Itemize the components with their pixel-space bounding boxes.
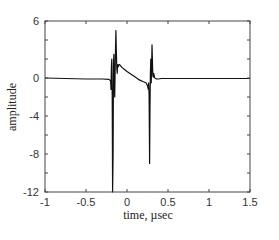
y-tick-label: -4: [29, 110, 39, 122]
y-tick-label: -8: [29, 148, 39, 160]
x-tick-label: 1: [206, 196, 212, 208]
x-tick-label: 1.5: [242, 196, 257, 208]
y-tick-label: 6: [33, 15, 39, 27]
plot-frame: [45, 21, 250, 192]
plot-area: [45, 31, 250, 193]
y-tick-labels: -12-8-406: [23, 15, 39, 198]
signal-line: [45, 31, 250, 193]
x-tick-labels: -1-0.500.511.5: [40, 196, 258, 208]
x-tick-label: 0: [124, 196, 130, 208]
x-tick-label: -1: [40, 196, 50, 208]
x-tick-label: -0.5: [77, 196, 96, 208]
axis-ticks: [45, 21, 250, 192]
chart: -1-0.500.511.5 -12-8-406 time, µsec ampl…: [0, 0, 279, 240]
y-axis-label: amplitude: [5, 83, 19, 131]
x-tick-label: 0.5: [160, 196, 175, 208]
y-tick-label: -12: [23, 186, 39, 198]
x-axis-label: time, µsec: [123, 208, 173, 222]
y-tick-label: 0: [33, 72, 39, 84]
